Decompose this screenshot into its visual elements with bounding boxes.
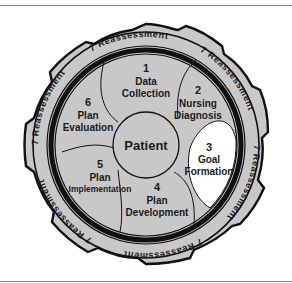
svg-text:5: 5 <box>97 158 103 170</box>
svg-text:Implementation: Implementation <box>69 184 132 194</box>
svg-text:Plan: Plan <box>89 172 110 183</box>
svg-text:Data: Data <box>135 76 157 87</box>
svg-text:Goal: Goal <box>198 154 220 165</box>
patient-label: Patient <box>124 138 168 153</box>
svg-text:6: 6 <box>85 96 91 108</box>
svg-text:Development: Development <box>126 207 189 218</box>
svg-text:1: 1 <box>143 62 149 74</box>
svg-text:Plan: Plan <box>146 195 167 206</box>
svg-text:Collection: Collection <box>122 88 170 99</box>
svg-text:Diagnosis: Diagnosis <box>174 110 222 121</box>
nursing-process-wheel: 7 Reassessment 7 Reassessment 7 Reassess… <box>0 0 292 283</box>
svg-text:Formation: Formation <box>185 166 234 177</box>
svg-text:4: 4 <box>154 181 161 193</box>
svg-text:Nursing: Nursing <box>179 98 217 109</box>
svg-text:Evaluation: Evaluation <box>63 122 114 133</box>
svg-text:3: 3 <box>206 141 212 153</box>
svg-text:2: 2 <box>195 84 201 96</box>
svg-text:Plan: Plan <box>77 110 98 121</box>
